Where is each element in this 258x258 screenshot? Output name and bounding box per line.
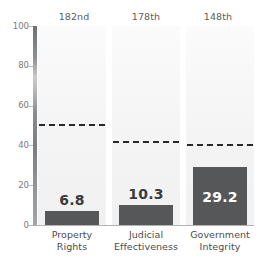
x-axis-baseline: [28, 225, 254, 226]
reference-line-property-rights: [39, 124, 106, 126]
category-label-government-integrity: Government Integrity: [186, 229, 254, 257]
rank-annotation-government-integrity: 148th: [182, 9, 254, 25]
value-label-judicial-effectiveness: 10.3: [112, 186, 180, 202]
category-label-judicial-effectiveness: Judicial Effectiveness: [112, 229, 180, 257]
y-axis-tick-label-40: 40: [1, 141, 29, 150]
y-axis-tick-label-20: 20: [1, 181, 29, 190]
y-axis-tick-mark-40: [28, 145, 33, 146]
rank-annotation-row: 182nd 178th 148th: [38, 9, 254, 25]
y-axis-spine: [33, 26, 37, 225]
y-axis-tick-mark-100: [28, 26, 33, 27]
reference-line-judicial-effectiveness: [113, 141, 180, 143]
y-axis-tick-label-0: 0: [1, 221, 29, 230]
plot-area: 6.8 10.3 29.2: [38, 26, 254, 225]
y-axis-tick-label-60: 60: [1, 101, 29, 110]
column-judicial-effectiveness: 10.3: [112, 26, 180, 225]
y-axis-tick-mark-80: [28, 66, 33, 67]
bar-property-rights: [45, 211, 99, 225]
y-axis-tick-mark-20: [28, 185, 33, 186]
column-property-rights: 6.8: [38, 26, 106, 225]
rule-of-law-bar-chart: 182nd 178th 148th 100806040200 6.8 10.3 …: [0, 0, 258, 258]
column-government-integrity: 29.2: [186, 26, 254, 225]
y-axis-tick-label-100: 100: [1, 22, 29, 31]
category-label-row: Property Rights Judicial Effectiveness G…: [38, 229, 254, 257]
y-axis-tick-label-80: 80: [1, 61, 29, 70]
rank-annotation-property-rights: 182nd: [38, 9, 110, 25]
value-label-government-integrity: 29.2: [186, 189, 254, 205]
reference-line-government-integrity: [187, 144, 254, 146]
y-axis-tick-mark-60: [28, 106, 33, 107]
bar-judicial-effectiveness: [119, 205, 173, 225]
rank-annotation-judicial-effectiveness: 178th: [110, 9, 182, 25]
value-label-property-rights: 6.8: [38, 192, 106, 208]
category-label-property-rights: Property Rights: [38, 229, 106, 257]
